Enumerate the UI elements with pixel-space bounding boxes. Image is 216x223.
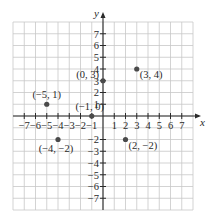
data-point-label: (2, −2) — [129, 140, 158, 152]
y-tick-label: −4 — [88, 158, 100, 169]
data-point-label: (−1, 0) — [75, 101, 104, 113]
y-tick-label: −5 — [88, 170, 99, 181]
x-tick-label: 2 — [123, 120, 128, 131]
x-axis-label: x — [199, 116, 205, 128]
x-tick-label: −7 — [19, 120, 30, 131]
data-point — [100, 78, 105, 83]
x-tick-label: −6 — [30, 120, 41, 131]
data-point-label: (−4, −2) — [39, 143, 74, 155]
axes — [13, 12, 201, 210]
x-tick-label: −4 — [52, 120, 64, 131]
x-tick-label: −2 — [75, 120, 86, 131]
y-tick-label: −7 — [88, 193, 99, 204]
data-point-label: (−5, 1) — [32, 89, 61, 101]
y-tick-label: −6 — [88, 181, 99, 192]
x-tick-label: 3 — [134, 120, 139, 131]
x-tick-label: 6 — [168, 120, 173, 131]
data-point — [134, 66, 139, 71]
data-point — [44, 102, 49, 107]
x-tick-label: −1 — [86, 120, 97, 131]
y-tick-label: −2 — [88, 134, 99, 145]
y-tick-label: 2 — [94, 87, 99, 98]
x-tick-label: −3 — [64, 120, 75, 131]
x-tick-label: −5 — [41, 120, 52, 131]
data-point — [89, 113, 94, 118]
data-point — [123, 137, 128, 142]
x-tick-label: 4 — [145, 120, 151, 131]
y-tick-label: −3 — [88, 146, 99, 157]
data-point-label: (3, 4) — [140, 69, 163, 81]
x-tick-label: 1 — [112, 120, 117, 131]
data-point — [55, 137, 60, 142]
x-tick-label: 5 — [157, 120, 162, 131]
data-point-label: (0, 3) — [76, 69, 99, 81]
y-axis-label: y — [93, 7, 99, 19]
y-tick-label: 5 — [94, 52, 99, 63]
x-tick-label: 7 — [179, 120, 184, 131]
y-tick-label: 6 — [94, 40, 99, 51]
y-axis-arrow-icon — [101, 12, 106, 18]
coordinate-plane: −7−6−5−4−3−2−112345677654321−2−3−4−5−6−7… — [0, 0, 216, 223]
y-tick-label: 7 — [94, 29, 99, 40]
